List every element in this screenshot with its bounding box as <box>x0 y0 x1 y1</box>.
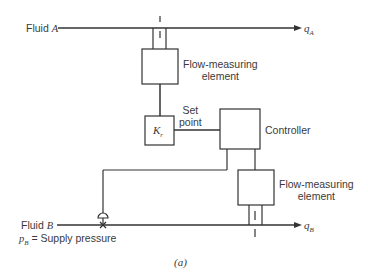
ratio-block-label: Kr <box>153 124 163 141</box>
supply-pressure-label: pB = Supply pressure <box>19 232 116 249</box>
q-a-label: qA <box>304 22 314 39</box>
flow-element-bottom-label: Flow-measuring element <box>279 178 354 202</box>
fluid-b-arrow-icon <box>294 222 302 228</box>
flow-element-top-label: Flow-measuring element <box>183 58 258 82</box>
q-b-label: qB <box>304 219 314 236</box>
controller-box <box>220 109 260 149</box>
control-valve-icon <box>98 213 108 218</box>
set-point-label: Set point <box>179 104 202 128</box>
flow-element-top-box <box>142 49 178 84</box>
fluid-a-label: Fluid A <box>26 22 58 35</box>
flow-element-bottom-box <box>238 170 274 205</box>
fluid-a-arrow-icon <box>294 25 302 31</box>
fluid-b-label: Fluid B <box>21 219 53 232</box>
controller-label: Controller <box>265 124 311 136</box>
figure-caption: (a) <box>174 256 187 268</box>
